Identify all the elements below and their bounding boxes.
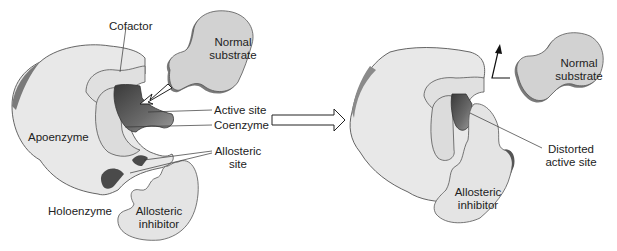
- label-normal-substrate-right: Normal substrate: [553, 57, 605, 83]
- binding-arrow-icon: [140, 84, 172, 104]
- label-allosteric-inhibitor-line2: inhibitor: [133, 218, 185, 231]
- label-allosteric-inhibitor-line1: Allosteric: [133, 205, 185, 218]
- right-coenzyme-shape: [431, 96, 454, 161]
- label-coenzyme: Coenzyme: [214, 119, 269, 132]
- label-holoenzyme: Holoenzyme: [48, 205, 112, 218]
- label-distorted-active-site-line1: Distorted: [538, 143, 604, 156]
- label-normal-substrate-line1: Normal: [553, 57, 605, 70]
- label-apoenzyme: Apoenzyme: [28, 131, 89, 144]
- label-normal-substrate-line2: substrate: [207, 49, 259, 62]
- label-allosteric-site: Allosteric site: [212, 145, 264, 171]
- label-distorted-active-site-line2: active site: [538, 156, 604, 169]
- label-allosteric-site-line1: Allosteric: [212, 145, 264, 158]
- label-normal-substrate-line2: substrate: [553, 70, 605, 83]
- transition-arrow-icon: [272, 109, 345, 131]
- repelled-arrow-icon: [492, 44, 510, 78]
- label-allosteric-site-line2: site: [212, 158, 264, 171]
- label-active-site: Active site: [214, 104, 266, 117]
- label-normal-substrate-line1: Normal: [207, 36, 259, 49]
- label-allosteric-inhibitor-line1: Allosteric: [452, 186, 504, 199]
- left-enzyme: [12, 45, 174, 195]
- label-allosteric-inhibitor-line2: inhibitor: [452, 199, 504, 212]
- label-normal-substrate-left: Normal substrate: [207, 36, 259, 62]
- label-allosteric-inhibitor-right: Allosteric inhibitor: [452, 186, 504, 212]
- label-cofactor: Cofactor: [109, 20, 152, 33]
- label-allosteric-inhibitor-left: Allosteric inhibitor: [133, 205, 185, 231]
- allosteric-inhibition-diagram: Cofactor Normal substrate Active site Co…: [0, 0, 617, 251]
- label-distorted-active-site: Distorted active site: [538, 143, 604, 169]
